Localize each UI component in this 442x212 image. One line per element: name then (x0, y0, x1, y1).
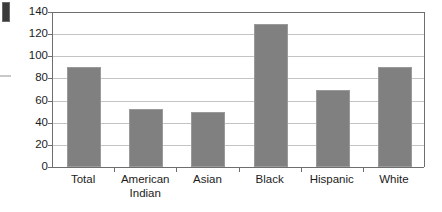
y-tick-mark-140 (48, 12, 53, 13)
plot-area (52, 12, 425, 167)
bar-chart: 140120100806040200 TotalAmerican IndianA… (0, 0, 442, 212)
x-axis-label-hispanic: Hispanic (301, 173, 363, 187)
bar-white[interactable] (378, 67, 412, 167)
x-axis-label-asian: Asian (176, 173, 238, 187)
y-tick-label-120: 120 (8, 28, 48, 40)
y-tick-mark-40 (48, 123, 53, 124)
gridline-20 (53, 145, 424, 146)
y-axis-tick-labels: 140120100806040200 (4, 12, 48, 167)
x-tick-mark-3 (239, 167, 240, 172)
x-axis-tick-labels: TotalAmerican IndianAsianBlackHispanicWh… (52, 173, 425, 211)
y-tick-label-60: 60 (8, 95, 48, 107)
bar-black[interactable] (254, 24, 288, 167)
gridline-40 (53, 123, 424, 124)
gridline-140 (53, 12, 424, 13)
x-tick-mark-2 (176, 167, 177, 172)
x-axis-label-black: Black (239, 173, 301, 187)
bar-asian[interactable] (191, 112, 225, 167)
y-tick-mark-80 (48, 78, 53, 79)
gridline-120 (53, 34, 424, 35)
y-tick-mark-60 (48, 101, 53, 102)
gridline-80 (53, 78, 424, 79)
x-tick-mark-4 (301, 167, 302, 172)
y-tick-label-140: 140 (8, 6, 48, 18)
y-tick-label-40: 40 (8, 117, 48, 129)
y-tick-mark-120 (48, 34, 53, 35)
gridline-100 (53, 56, 424, 57)
x-tick-mark-1 (114, 167, 115, 172)
x-axis-label-american-indian: American Indian (114, 173, 176, 200)
bar-american-indian[interactable] (129, 109, 163, 167)
y-tick-label-20: 20 (8, 139, 48, 151)
y-tick-label-100: 100 (8, 51, 48, 63)
gridline-60 (53, 101, 424, 102)
y-tick-label-0: 0 (8, 161, 48, 173)
bar-total[interactable] (67, 67, 101, 167)
x-axis-label-white: White (363, 173, 425, 187)
y-tick-label-80: 80 (8, 73, 48, 85)
bar-hispanic[interactable] (316, 90, 350, 168)
y-tick-mark-100 (48, 56, 53, 57)
y-tick-mark-20 (48, 145, 53, 146)
x-tick-mark-5 (363, 167, 364, 172)
x-axis-label-total: Total (52, 173, 114, 187)
